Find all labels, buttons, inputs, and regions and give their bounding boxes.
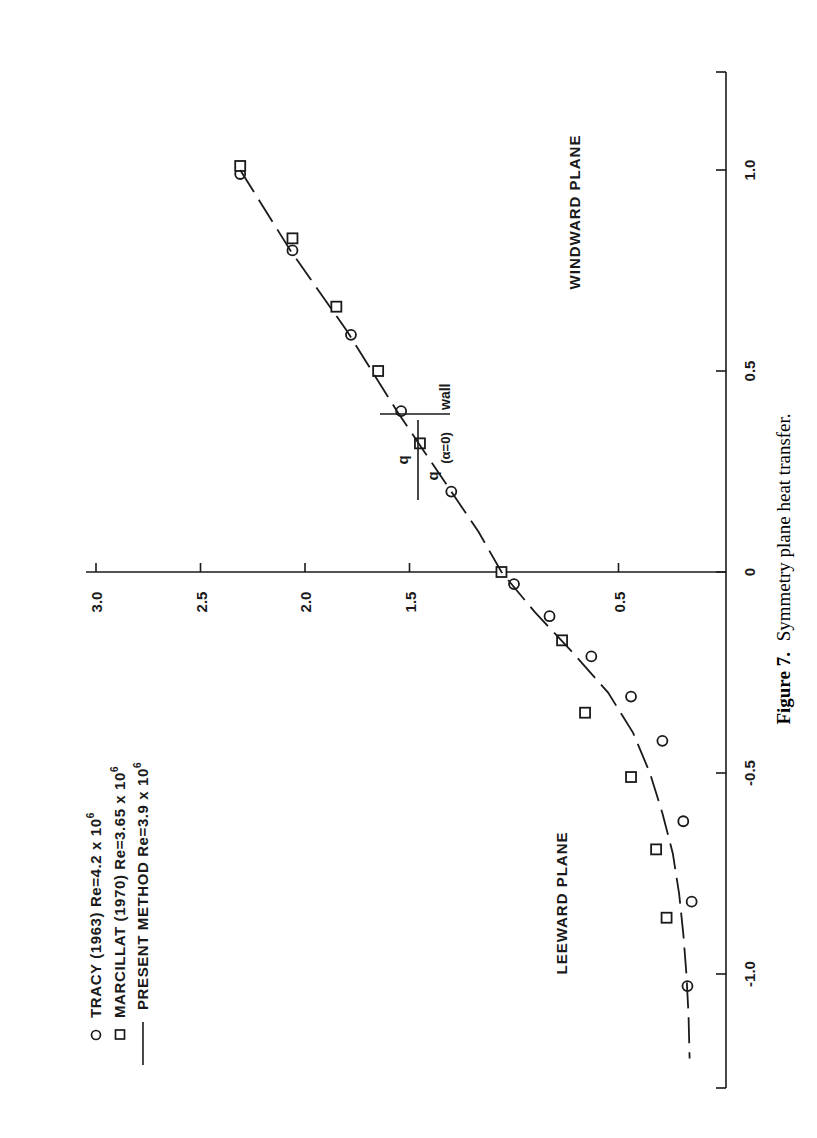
marcillat-data-point [373, 366, 383, 376]
y-label-denominator: q [424, 471, 441, 480]
x-tick-label: 0.5 [741, 361, 758, 382]
tracy-data-point [626, 692, 636, 702]
tracy-data-point [586, 651, 596, 661]
y-tick-label: 0.5 [611, 592, 628, 613]
legend-circle-icon [92, 1031, 101, 1040]
series-circle [235, 169, 696, 991]
marcillat-data-point [626, 772, 636, 782]
legend-item: TRACY (1963) Re=4.2 x 106 [85, 812, 104, 1039]
legend-exponent: 6 [85, 812, 96, 818]
legend-square-icon [116, 1030, 125, 1039]
y-tick-label: 1.5 [402, 592, 419, 613]
marcillat-data-point [580, 708, 590, 718]
tracy-data-point [545, 611, 555, 621]
caption: Figure 7. Symmetry plane heat transfer. [773, 413, 794, 724]
marcillat-data-point [287, 233, 297, 243]
leeward-plane-label: LEEWARD PLANE [553, 831, 570, 974]
labels-layer: 3.02.52.01.50.5-1.0-0.500.51.0qq(α=0)wal… [88, 135, 758, 987]
caption-text: Symmetry plane heat transfer. [773, 413, 794, 641]
caption-label: Figure 7. [773, 652, 794, 724]
legend-exponent: 6 [132, 762, 143, 768]
legend-label: MARCILLAT (1970) Re=3.65 x 106 [109, 766, 128, 1018]
y-tick-label: 2.0 [297, 592, 314, 613]
x-tick-label: 1.0 [741, 160, 758, 181]
legend-label: TRACY (1963) Re=4.2 x 106 [85, 812, 104, 1018]
marcillat-data-point [331, 302, 341, 312]
y-tick-label: 2.5 [193, 592, 210, 613]
figure: 3.02.52.01.50.5-1.0-0.500.51.0qq(α=0)wal… [0, 0, 817, 1138]
y-label-numerator: q [394, 455, 411, 464]
x-tick-label: 0 [741, 568, 758, 576]
windward-plane-label: WINDWARD PLANE [566, 135, 583, 290]
x-tick-label: -1.0 [741, 961, 758, 987]
marcillat-data-point [651, 844, 661, 854]
figure-caption: Figure 7. Symmetry plane heat transfer. [773, 413, 794, 724]
legend: TRACY (1963) Re=4.2 x 106MARCILLAT (1970… [85, 762, 151, 1065]
x-tick-label: -0.5 [741, 760, 758, 786]
tracy-data-point [687, 897, 697, 907]
legend-item: PRESENT METHOD Re=3.9 x 106 [132, 762, 151, 1065]
marcillat-data-point [662, 913, 672, 923]
tracy-data-point [657, 736, 667, 746]
series-square [235, 161, 671, 923]
legend-label: PRESENT METHOD Re=3.9 x 106 [132, 762, 151, 1010]
chart: 3.02.52.01.50.5-1.0-0.500.51.0qq(α=0)wal… [0, 0, 817, 1138]
tracy-data-point [678, 816, 688, 826]
tracy-data-point [446, 487, 456, 497]
y-label-suffix: wall [437, 384, 453, 411]
present-method-curve [240, 170, 689, 1058]
y-label-subscript: (α=0) [438, 432, 453, 463]
legend-exponent: 6 [109, 766, 120, 772]
legend-item: MARCILLAT (1970) Re=3.65 x 106 [109, 766, 128, 1039]
y-tick-label: 3.0 [88, 592, 105, 613]
marcillat-data-point [235, 161, 245, 171]
axes [86, 72, 726, 1088]
series-dashed-line [240, 170, 689, 1058]
